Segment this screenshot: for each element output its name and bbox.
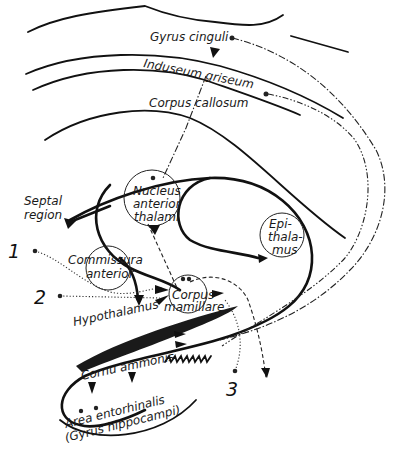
label-nucleus-line2: anterior [133, 197, 182, 211]
induseum-dot [264, 92, 269, 97]
marker-2-dot [58, 294, 63, 299]
label-commissura-line2: anterior [86, 267, 135, 281]
nucleus-dot [151, 176, 156, 181]
marker-3-label: 3 [226, 378, 238, 400]
cortex-surface-line-right [291, 36, 348, 52]
label-epithalamus-line1: Epi- [269, 217, 292, 231]
diagram-stage: Gyrus cinguli Induseum griseum Corpus ca… [0, 0, 395, 454]
arrowhead-gyrus-cinguli [210, 47, 220, 58]
arrowhead-mamillare-in-1 [155, 285, 169, 294]
label-corpus-callosum: Corpus callosum [149, 96, 248, 110]
arrowhead-epithalamus [258, 254, 268, 263]
pathway-2-dotted [60, 296, 160, 298]
label-gyrus-cinguli: Gyrus cinguli [150, 30, 229, 44]
arrowhead-cornu-in-2 [175, 341, 187, 348]
arrowhead-nucleus [148, 225, 160, 235]
limbic-system-diagram: Gyrus cinguli Induseum griseum Corpus ca… [0, 0, 395, 454]
label-septal-line2: region [24, 208, 62, 222]
label-commissura-line1: Commissura [68, 253, 143, 267]
arrowhead-cornu-down-1 [88, 382, 96, 394]
marker-1-dot [33, 249, 38, 254]
arrowhead-cornu-down-2 [128, 372, 136, 383]
label-nucleus-line3: thalami [134, 210, 180, 224]
cingulum-pathway-inner [222, 94, 368, 346]
marker-2-label: 2 [34, 286, 46, 308]
corpus-mamillare-dot-a [181, 277, 185, 281]
marker-3-dot [233, 369, 238, 374]
cortex-surface-line [28, 6, 283, 32]
gyrus-cinguli-dot [230, 36, 235, 41]
corpus-mamillare-dot-b [187, 277, 191, 281]
stria-medullaris [178, 178, 258, 258]
label-epithalamus-line3: mus [272, 243, 298, 257]
label-epithalamus-line2: thala- [268, 230, 303, 244]
label-cornu-ammonis: Cornu ammonis [80, 349, 176, 382]
label-hypothalamus: Hypothalamus [72, 297, 160, 329]
label-septal-line1: Septal [24, 194, 63, 208]
callosum-to-nucleus-path [163, 76, 206, 178]
marker-1-label: 1 [8, 240, 20, 262]
label-corpus-mamillare-line2: mamillare [164, 300, 224, 314]
label-nucleus-line1: Nucleus [133, 184, 181, 198]
